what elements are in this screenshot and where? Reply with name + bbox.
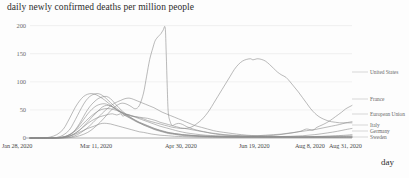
x-tick-label: Aug 31, 2020 xyxy=(329,142,362,149)
series-label-sweden: Sweden xyxy=(370,134,387,140)
x-tick-label: Jun 19, 2020 xyxy=(239,142,270,149)
y-tick-label: 100 xyxy=(6,78,26,85)
x-tick-label: Apr 30, 2020 xyxy=(165,142,197,149)
chart-screenshot: daily newly confirmed deaths per million… xyxy=(0,0,409,178)
gridlines xyxy=(30,26,352,110)
y-tick-label: 200 xyxy=(6,22,26,29)
x-tick-label: Aug 8, 2020 xyxy=(295,142,325,149)
chart-plot-area xyxy=(0,0,409,178)
y-tick-label: 50 xyxy=(6,106,26,113)
legend-leader-lines xyxy=(352,72,368,137)
x-tick-label: Jan 28, 2020 xyxy=(2,142,32,149)
x-tick-label: Mar 11, 2020 xyxy=(80,142,112,149)
series-lines xyxy=(30,26,352,138)
y-tick-label: 0 xyxy=(6,134,26,141)
series-label-united-states: United States xyxy=(370,69,398,75)
series-label-european-union: European Union xyxy=(370,111,405,117)
series-label-france: France xyxy=(370,96,384,102)
y-tick-label: 150 xyxy=(6,50,26,57)
x-axis-label: day xyxy=(381,157,394,167)
